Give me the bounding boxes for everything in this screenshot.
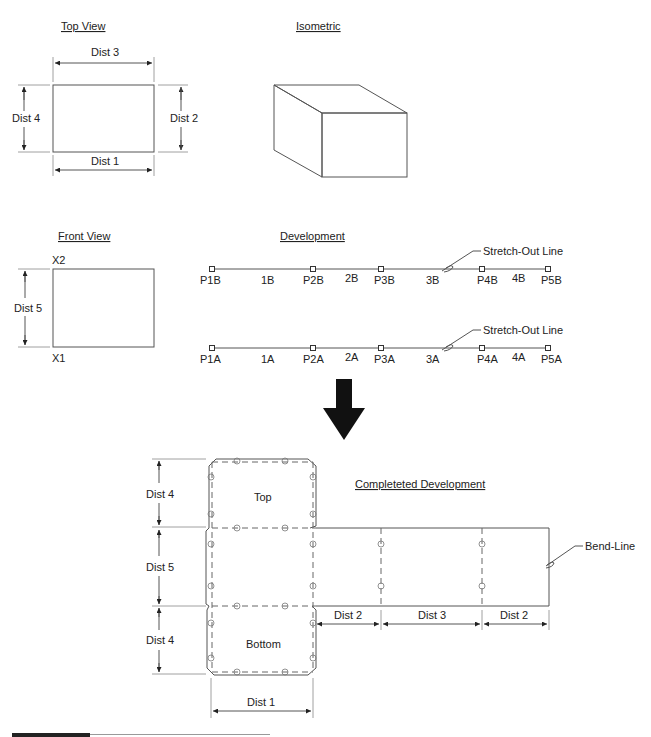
segment-2a: 2A xyxy=(345,351,359,363)
panel-label-top: Top xyxy=(254,491,272,503)
dim-label-bottom-dist2-a: Dist 2 xyxy=(334,609,362,621)
front-view-rect xyxy=(53,269,154,347)
development-section: Development P1B P2B P3B P4B P5B 1B 2B 3B… xyxy=(200,230,563,365)
top-view-title: Top View xyxy=(61,20,105,32)
callout-stretch-out-line-a: Stretch-Out Line xyxy=(483,324,563,336)
footer-rule-thin xyxy=(90,734,270,735)
point-p3a: P3A xyxy=(374,353,395,365)
point-p2b: P2B xyxy=(303,274,324,286)
middle-band-outline xyxy=(316,528,549,606)
arrow-down-icon xyxy=(323,379,365,440)
point-p5b: P5B xyxy=(541,274,562,286)
dim-label-left-dist4-bottom: Dist 4 xyxy=(146,634,174,646)
dim-label-dist1: Dist 1 xyxy=(91,155,119,167)
sheet-metal-diagram: Top View Dist 3 Dist 4 Dist 2 Dist 1 Iso… xyxy=(0,0,651,737)
point-p5a: P5A xyxy=(541,353,562,365)
isometric-box xyxy=(274,85,407,177)
dim-label-dist3: Dist 3 xyxy=(91,46,119,58)
completed-title: Completeted Development xyxy=(355,478,485,490)
point-p2a: P2A xyxy=(303,353,324,365)
isometric-title: Isometric xyxy=(296,20,341,32)
segment-4b: 4B xyxy=(512,272,525,284)
point-p1b: P1B xyxy=(200,274,221,286)
footer-rule-thick xyxy=(12,733,90,737)
segment-2b: 2B xyxy=(345,272,358,284)
dim-label-dist5: Dist 5 xyxy=(14,302,42,314)
development-title: Development xyxy=(280,230,345,242)
dim-label-dist2: Dist 2 xyxy=(170,112,198,124)
isometric-view: Isometric xyxy=(274,20,407,177)
completed-development: Completeted Development xyxy=(146,458,635,718)
dim-label-bottom-dist1: Dist 1 xyxy=(247,696,275,708)
front-view: Front View X2 X1 Dist 5 xyxy=(14,230,154,364)
top-view-rect xyxy=(53,85,154,152)
segment-3a: 3A xyxy=(426,353,440,365)
panel-label-bottom: Bottom xyxy=(246,638,281,650)
front-view-label-x1: X1 xyxy=(52,352,65,364)
dim-label-left-dist4-top: Dist 4 xyxy=(146,488,174,500)
callout-bend-line: Bend-Line xyxy=(585,540,635,552)
segment-1b: 1B xyxy=(261,274,274,286)
point-p4b: P4B xyxy=(477,274,498,286)
dim-label-left-dist5: Dist 5 xyxy=(146,561,174,573)
top-view: Top View Dist 3 Dist 4 Dist 2 Dist 1 xyxy=(12,20,198,176)
point-p4a: P4A xyxy=(477,353,498,365)
dim-label-dist4: Dist 4 xyxy=(12,112,40,124)
callout-leader xyxy=(442,251,481,271)
dim-label-bottom-dist2-b: Dist 2 xyxy=(500,609,528,621)
middle-left-edge xyxy=(206,528,209,606)
segment-4a: 4A xyxy=(512,351,526,363)
point-p1a: P1A xyxy=(200,353,221,365)
stretch-out-line-a: P1A P2A P3A P4A P5A 1A 2A 3A 4A Stretch-… xyxy=(200,324,563,365)
front-view-label-x2: X2 xyxy=(52,254,65,266)
dim-label-bottom-dist3: Dist 3 xyxy=(418,609,446,621)
segment-1a: 1A xyxy=(261,353,275,365)
segment-3b: 3B xyxy=(426,274,439,286)
callout-stretch-out-line-b: Stretch-Out Line xyxy=(483,245,563,257)
point-p3b: P3B xyxy=(374,274,395,286)
front-view-title: Front View xyxy=(58,230,110,242)
bend-line-leader xyxy=(546,546,583,566)
stretch-out-line-b: P1B P2B P3B P4B P5B 1B 2B 3B 4B Stretch-… xyxy=(200,245,563,286)
